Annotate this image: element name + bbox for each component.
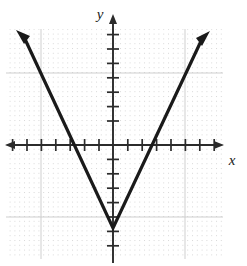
- graph-figure: y x: [0, 0, 247, 266]
- y-axis-label: y: [95, 6, 104, 22]
- coordinate-plane-svg: y x: [0, 0, 247, 266]
- y-axis-up-arrow: [109, 14, 117, 24]
- x-axis-label: x: [228, 152, 236, 168]
